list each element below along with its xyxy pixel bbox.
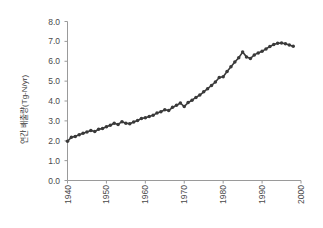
data-point-markers xyxy=(66,41,295,143)
chart-container: 연간 배출량(Tg-N/yr) 0.01.02.03.04.05.06.07.0… xyxy=(0,0,323,228)
plot-area xyxy=(0,0,323,228)
axis-lines xyxy=(68,22,302,181)
axis-tick-marks xyxy=(65,22,302,184)
data-series-line xyxy=(68,43,294,141)
